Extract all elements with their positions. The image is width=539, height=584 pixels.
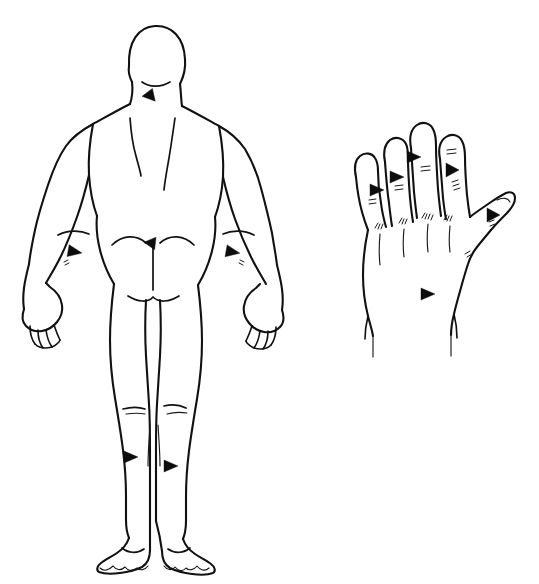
- posterior-body-figure: [23, 26, 284, 575]
- popliteal-crease-left-2: [126, 413, 145, 414]
- marker-calf-left: [124, 451, 138, 463]
- marker-calf-right: [164, 460, 178, 472]
- marker-hand-dorsum: [421, 288, 435, 300]
- arm-left-outer: [23, 264, 29, 309]
- ring-finger-outline: [384, 138, 413, 222]
- marker-nape: [142, 86, 159, 101]
- finger-hair-tufts: [369, 149, 495, 257]
- anatomy-illustration: [0, 0, 539, 584]
- hand-left-finger-4: [54, 325, 60, 340]
- trunk-right-outline: [182, 106, 277, 265]
- foot-left-outline: [97, 520, 150, 574]
- head-left-jaw: [129, 66, 132, 82]
- marker-forearm-left: [67, 245, 83, 259]
- tendon-ring: [403, 229, 404, 257]
- ankle-right: [183, 521, 186, 539]
- spine-line: [164, 118, 175, 190]
- arm-right-inner: [223, 177, 266, 284]
- gluteal-fold-bottom: [128, 296, 179, 301]
- body-markers: [67, 86, 241, 472]
- leg-left-outer: [110, 284, 126, 520]
- popliteal-crease-right: [164, 405, 186, 408]
- hand-right-finger-4: [246, 326, 252, 341]
- torso-left-waist: [89, 124, 97, 216]
- hand-left-finger-3: [46, 330, 52, 347]
- leg-left-inner: [145, 300, 150, 520]
- hand-right-finger-2: [263, 331, 268, 349]
- ankle-left: [126, 520, 129, 538]
- marker-forearm-right: [225, 245, 241, 259]
- heel-crease-left: [122, 548, 144, 552]
- hand-right-outline: [244, 284, 284, 332]
- neck-left-outline: [130, 82, 132, 104]
- head-outline: [129, 26, 185, 84]
- marker-little-finger: [370, 184, 384, 196]
- tendon-middle: [427, 224, 428, 252]
- tendon-little: [379, 234, 380, 265]
- gluteal-crease-left: [112, 237, 146, 245]
- hand-right-finger-1: [271, 327, 276, 345]
- marker-sacrum: [144, 233, 161, 249]
- marker-index-finger: [446, 163, 459, 177]
- neck-right-outline: [180, 84, 182, 106]
- hand-left-finger-2: [38, 330, 43, 348]
- hand-right-finger-3: [254, 331, 260, 348]
- gluteal-crease-right: [160, 237, 194, 245]
- popliteal-crease-right-2: [167, 412, 187, 414]
- popliteal-crease-left: [123, 408, 145, 410]
- heel-crease-right: [168, 548, 190, 552]
- scapula-left-line: [130, 118, 141, 176]
- trunk-left-outline: [29, 104, 130, 264]
- elbow-crease-left: [58, 231, 89, 235]
- forearm-hair-ticks: [64, 260, 244, 265]
- thumb-nail-crease: [497, 198, 510, 202]
- hand-wrist-left: [368, 316, 373, 336]
- hand-markers: [370, 151, 500, 300]
- hand-left-fingers: [30, 326, 35, 344]
- hairline-crease: [142, 82, 170, 86]
- leg-right-outer: [186, 285, 202, 521]
- hand-left-outline: [23, 283, 63, 331]
- anatomical-figure-canvas: Posterior body and dorsal hand anatomica…: [0, 0, 539, 584]
- elbow-crease-right: [223, 231, 254, 235]
- pelvis-left-outline: [97, 216, 114, 284]
- hand-ulnar-border: [363, 230, 368, 316]
- calf-contour-right: [158, 425, 160, 466]
- little-finger-inner: [356, 177, 368, 230]
- arm-right-outer: [277, 265, 283, 310]
- wrist-base-left: [365, 316, 368, 339]
- wrist-base-right: [454, 314, 457, 338]
- thumb-inner: [462, 230, 491, 284]
- pelvis-right-outline: [198, 217, 215, 285]
- marker-ring-finger: [390, 171, 404, 183]
- arm-left-inner: [46, 175, 89, 283]
- knuckle-tendon-lines: [379, 224, 450, 265]
- torso-right-waist: [215, 126, 223, 217]
- tendon-index: [449, 226, 450, 252]
- marker-middle-finger: [407, 151, 421, 163]
- leg-right-inner: [156, 300, 161, 521]
- dorsal-hand-figure: [355, 123, 515, 357]
